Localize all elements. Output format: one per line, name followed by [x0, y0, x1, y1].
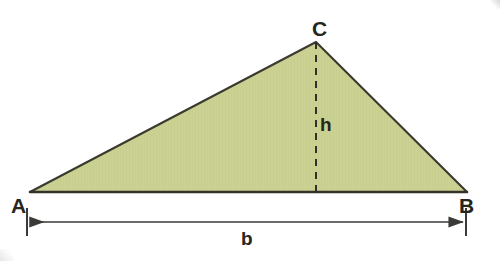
vertex-label-b: B — [459, 195, 474, 216]
base-label: b — [241, 229, 253, 248]
height-label: h — [320, 115, 332, 134]
diagram-canvas: A B C h b — [0, 0, 500, 261]
triangle-figure — [0, 0, 500, 261]
triangle-shape — [30, 42, 467, 192]
vertex-label-c: C — [312, 18, 327, 39]
vertex-label-a: A — [11, 195, 26, 216]
